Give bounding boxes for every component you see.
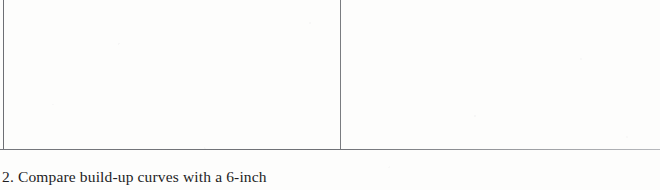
- figure-caption-text: 2. Compare build-up curves with a 6-inch: [2, 167, 658, 186]
- figure-frame: [0, 0, 660, 150]
- figure-caption: 2. Compare build-up curves with a 6-inch: [2, 167, 658, 190]
- scanned-page: 2. Compare build-up curves with a 6-inch: [0, 0, 660, 190]
- figure-bottom-rule: [0, 149, 660, 150]
- figure-cell-right: [340, 0, 660, 149]
- figure-cell-left: [3, 0, 341, 149]
